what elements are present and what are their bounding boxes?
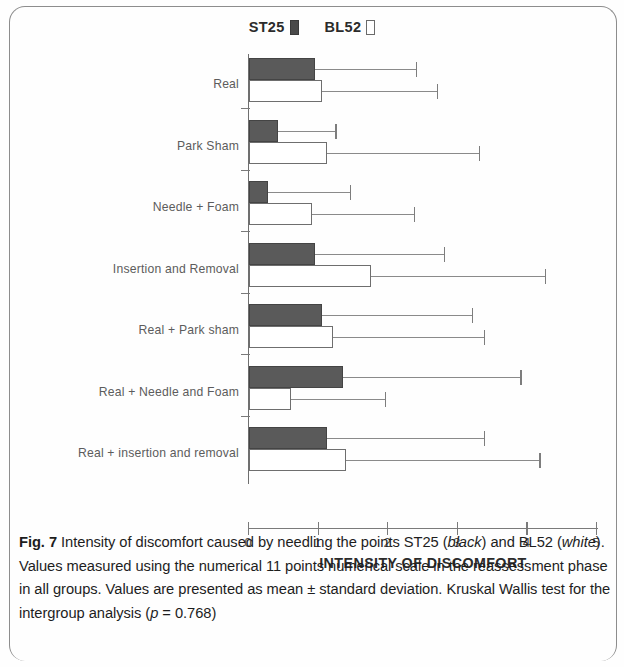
bar-rect [249, 265, 371, 287]
bar-rect [249, 366, 343, 388]
error-bar-cap [484, 330, 485, 345]
error-bar-line [322, 91, 437, 92]
bar-rect [249, 80, 322, 102]
bar-bl52-0 [249, 80, 609, 102]
category-label-0: Real [213, 77, 248, 91]
error-bar-line [371, 276, 545, 277]
bar-rect [249, 326, 333, 348]
bar-bl52-6 [249, 449, 609, 471]
bar-group: Real [0, 54, 624, 114]
category-label-6: Real + insertion and removal [78, 446, 248, 460]
y-axis-tick [241, 416, 250, 417]
bar-group: Needle + Foam [0, 177, 624, 237]
bar-st25-6 [249, 427, 609, 449]
error-bar-cap [484, 431, 485, 446]
bar-rect [249, 181, 268, 203]
error-bar-line [327, 153, 479, 154]
bar-group: Real + Needle and Foam [0, 362, 624, 422]
bar-rect [249, 203, 312, 225]
y-axis-tick [241, 231, 250, 232]
legend-label-bl52: BL52 [325, 20, 362, 35]
error-bar-line [291, 399, 385, 400]
y-axis-tick [241, 293, 250, 294]
bar-st25-3 [249, 243, 609, 265]
error-bar-cap [414, 207, 415, 222]
bar-bl52-3 [249, 265, 609, 287]
y-axis-tick [241, 108, 250, 109]
error-bar-line [333, 337, 484, 338]
bar-st25-5 [249, 366, 609, 388]
error-bar-line [322, 315, 472, 316]
y-axis-tick [241, 354, 250, 355]
error-bar-cap [416, 62, 417, 77]
category-label-1: Park Sham [177, 139, 248, 153]
error-bar-cap [350, 185, 351, 200]
bar-rect [249, 120, 278, 142]
caption-italic-white: white [562, 534, 596, 550]
filled-square-icon [290, 20, 299, 35]
error-bar-cap [437, 84, 438, 99]
error-bar-line [268, 192, 349, 193]
error-bar-cap [479, 146, 480, 161]
error-bar-cap [444, 247, 445, 262]
category-label-2: Needle + Foam [153, 200, 248, 214]
legend-label-st25: ST25 [249, 20, 285, 35]
error-bar-cap [545, 269, 546, 284]
bar-bl52-5 [249, 388, 609, 410]
figure-card: ST25 BL52 RealPark ShamNeedle + FoamInse… [0, 0, 624, 667]
bar-bl52-2 [249, 203, 609, 225]
bar-bl52-1 [249, 142, 609, 164]
bar-st25-2 [249, 181, 609, 203]
bar-rect [249, 58, 315, 80]
bar-rect [249, 243, 315, 265]
chart-plot-area: RealPark ShamNeedle + FoamInsertion and … [0, 50, 624, 490]
error-bar-cap [335, 124, 336, 139]
bar-rect [249, 304, 322, 326]
category-label-4: Real + Park sham [139, 323, 248, 337]
figure-caption: Fig. 7 Intensity of discomfort caused by… [19, 531, 611, 625]
bar-group: Real + insertion and removal [0, 423, 624, 483]
bar-rect [249, 427, 327, 449]
error-bar-line [346, 460, 539, 461]
caption-italic-black: black [448, 534, 482, 550]
error-bar-cap [520, 370, 521, 385]
hollow-square-icon [366, 20, 375, 35]
error-bar-line [315, 254, 444, 255]
bar-rect [249, 142, 327, 164]
caption-text-4: = 0.768) [158, 605, 216, 621]
caption-text-2: ) and BL52 ( [482, 534, 562, 550]
error-bar-line [343, 377, 520, 378]
bar-group: Insertion and Removal [0, 239, 624, 299]
error-bar-cap [385, 392, 386, 407]
legend-item-bl52: BL52 [325, 20, 376, 35]
bar-st25-4 [249, 304, 609, 326]
caption-text-1: Intensity of discomfort caused by needli… [57, 534, 447, 550]
bar-group: Park Sham [0, 116, 624, 176]
chart-legend: ST25 BL52 [0, 20, 624, 35]
category-label-5: Real + Needle and Foam [99, 385, 248, 399]
x-axis-line [248, 528, 598, 529]
error-bar-cap [472, 308, 473, 323]
figure-number: Fig. 7 [19, 534, 57, 550]
bar-rect [249, 388, 291, 410]
error-bar-line [278, 131, 335, 132]
bar-bl52-4 [249, 326, 609, 348]
error-bar-line [327, 438, 484, 439]
bar-group: Real + Park sham [0, 300, 624, 360]
bar-rect [249, 449, 346, 471]
error-bar-line [312, 214, 414, 215]
category-label-3: Insertion and Removal [113, 262, 248, 276]
bar-st25-1 [249, 120, 609, 142]
error-bar-cap [539, 453, 540, 468]
bar-st25-0 [249, 58, 609, 80]
legend-item-st25: ST25 [249, 20, 299, 35]
error-bar-line [315, 69, 416, 70]
y-axis-tick [241, 170, 250, 171]
